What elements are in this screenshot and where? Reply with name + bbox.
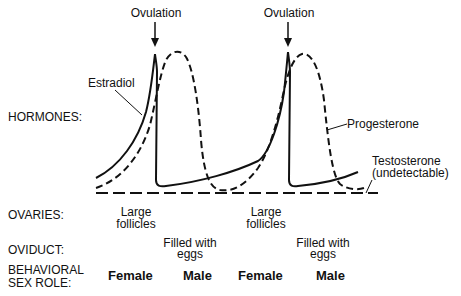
testosterone-label-line2: (undetectable)	[372, 167, 449, 179]
behavioral-label-line2: SEX ROLE:	[8, 277, 84, 290]
ovaries-entry-line2: follicles	[108, 218, 164, 230]
ovulation-label-2: Ovulation	[261, 7, 317, 19]
oviduct-entry-1: Filled with eggs	[155, 238, 225, 260]
testosterone-label: Testosterone (undetectable)	[372, 155, 449, 179]
ovulation-label-1: Ovulation	[128, 7, 184, 19]
ovaries-row-label: OVARIES:	[8, 209, 64, 222]
arrowhead-icon	[151, 38, 159, 47]
arrowhead-icon	[284, 38, 292, 47]
oviduct-entry-line2: eggs	[155, 249, 225, 260]
behavioral-row-label: BEHAVIORAL SEX ROLE:	[8, 264, 84, 290]
sex-role-female-1: Female	[108, 270, 153, 282]
estradiol-curve-1	[96, 52, 358, 186]
ovaries-entry-line2: follicles	[238, 218, 294, 230]
ovaries-entry-2: Large follicles	[238, 206, 294, 230]
estradiol-leader	[115, 90, 142, 115]
hormones-row-label: HORMONES:	[8, 111, 82, 124]
sex-role-male-2: Male	[316, 270, 345, 282]
sex-role-male-1: Male	[183, 270, 212, 282]
progesterone-curve-1	[96, 52, 364, 191]
oviduct-entry-line2: eggs	[288, 249, 358, 260]
oviduct-entry-2: Filled with eggs	[288, 238, 358, 260]
sex-role-female-2: Female	[238, 270, 283, 282]
progesterone-label: Progesterone	[347, 118, 419, 130]
estradiol-label: Estradiol	[88, 77, 135, 89]
ovaries-entry-1: Large follicles	[108, 206, 164, 230]
hormone-curves	[0, 0, 461, 296]
oviduct-row-label: OVIDUCT:	[8, 244, 64, 257]
testosterone-leader	[366, 180, 372, 193]
progesterone-leader	[327, 124, 347, 130]
